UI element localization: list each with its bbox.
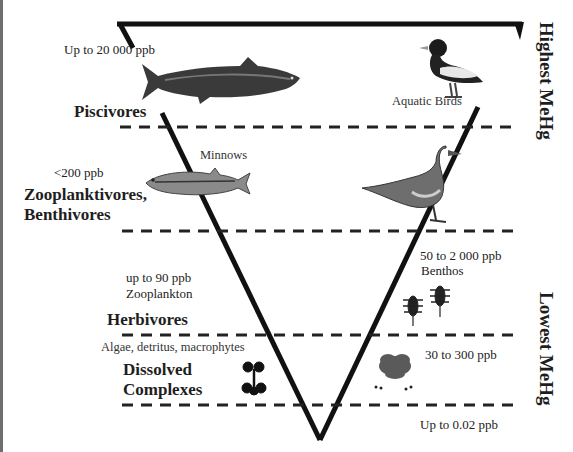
algae-concentration: 30 to 300 ppb bbox=[425, 348, 497, 362]
benthivores-label-line2: Benthivores bbox=[24, 206, 111, 224]
aquatic-birds-label: Aquatic Birds bbox=[392, 94, 452, 108]
dissolved-concentration: Up to 0.02 ppb bbox=[420, 418, 498, 432]
benthos-label: Benthos bbox=[421, 264, 464, 278]
zooplanktivores-concentration: <200 ppb bbox=[54, 166, 104, 180]
piscivores-label: Piscivores bbox=[74, 103, 146, 121]
piscivores-concentration: Up to 20 000 ppb bbox=[64, 43, 155, 57]
benthos-concentration: 50 to 2 000 ppb bbox=[420, 249, 502, 263]
minnows-label: Minnows bbox=[200, 149, 247, 162]
trout-fish-icon bbox=[142, 57, 300, 104]
minnow-fish-icon bbox=[146, 168, 250, 195]
zooplanktivores-label-line1: Zooplanktivores, bbox=[24, 186, 147, 204]
lowest-mehg-label: Lowest MeHg bbox=[535, 292, 557, 405]
macrophyte-plant-icon bbox=[375, 354, 413, 391]
molecule-icon bbox=[242, 362, 266, 395]
zooplankton-concentration: up to 90 ppb bbox=[126, 271, 191, 285]
herbivores-label: Herbivores bbox=[107, 311, 188, 329]
duck-icon bbox=[419, 39, 483, 97]
zooplankton-label: Zooplankton bbox=[126, 287, 192, 301]
water-bird-icon bbox=[362, 146, 462, 222]
benthic-insect-larvae-icon bbox=[403, 286, 450, 326]
dissolved-label-line1: Dissolved bbox=[123, 361, 192, 379]
algae-detritus-label: Algae, detritus, macrophytes bbox=[101, 341, 245, 354]
pyramid-diagram bbox=[0, 0, 573, 452]
complexes-label-line2: Complexes bbox=[123, 381, 202, 399]
pyramid-corner-hook bbox=[514, 22, 524, 40]
highest-mehg-label: Highest MeHg bbox=[535, 22, 557, 140]
